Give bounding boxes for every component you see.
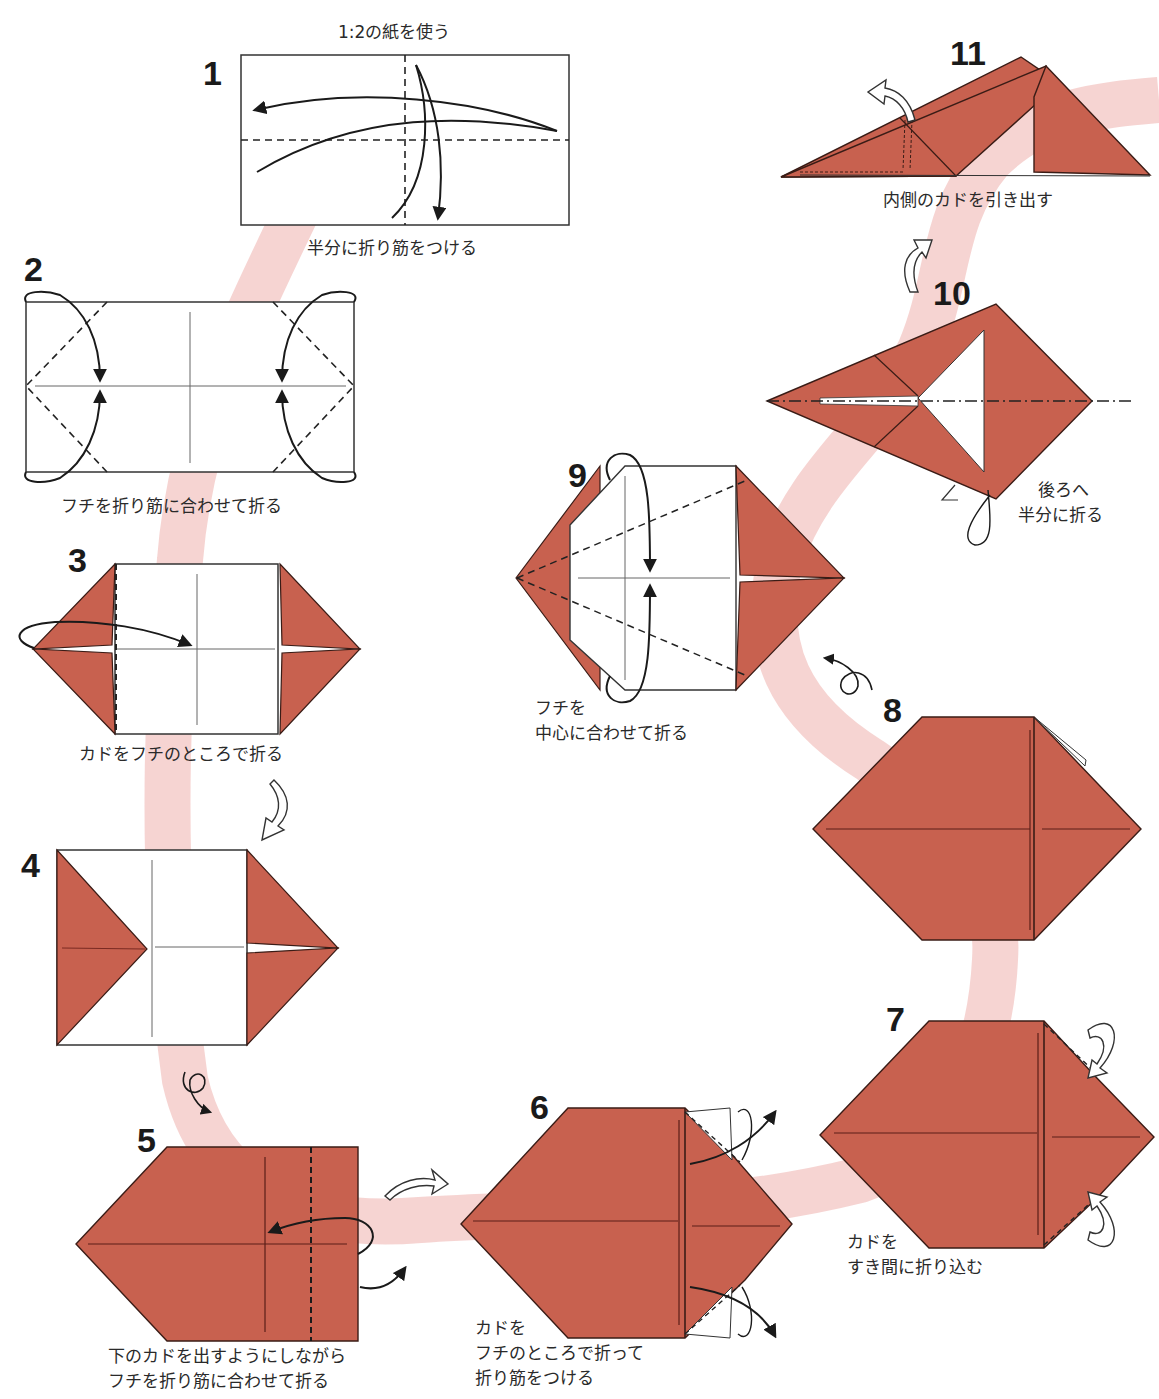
- step-5-instruction-line1: 下のカドを出すようにしながら: [108, 1344, 346, 1368]
- step-number-10: 10: [933, 276, 971, 310]
- step-6-instruction-line3: 折り筋をつける: [475, 1366, 594, 1390]
- step-9-instruction-line2: 中心に合わせて折る: [535, 721, 688, 745]
- step-1-diagram: [241, 55, 569, 225]
- step-4-diagram: [57, 850, 338, 1045]
- step-10-instruction-line2: 半分に折る: [1018, 503, 1103, 527]
- step-6-diagram: [461, 1108, 792, 1338]
- step-7-instruction-line1: カドを: [847, 1230, 898, 1254]
- step-10-instruction-line1: 後ろへ: [1038, 478, 1089, 502]
- step-6-instruction-line1: カドを: [475, 1316, 526, 1340]
- step-7-diagram: [820, 1021, 1154, 1248]
- step-number-7: 7: [886, 1002, 905, 1036]
- turn-over-icon: [825, 658, 872, 694]
- step-number-11: 11: [950, 36, 986, 70]
- step-2-instruction: フチを折り筋に合わせて折る: [61, 494, 282, 518]
- step-11-diagram: [781, 57, 1150, 177]
- step-number-4: 4: [21, 848, 40, 882]
- step-number-3: 3: [68, 543, 87, 577]
- step-number-8: 8: [883, 693, 902, 727]
- step-3-diagram: [20, 564, 360, 734]
- step-1-note: 1:2の紙を使う: [338, 20, 450, 44]
- step-5-instruction-line2: フチを折り筋に合わせて折る: [108, 1369, 329, 1393]
- step-number-9: 9: [568, 458, 587, 492]
- step-7-instruction-line2: すき間に折り込む: [847, 1255, 983, 1279]
- step-number-1: 1: [203, 56, 222, 90]
- step-5-diagram: [76, 1147, 405, 1341]
- step-1-instruction: 半分に折り筋をつける: [307, 236, 477, 260]
- rotate-hollow-arrow-icon: [385, 1170, 448, 1200]
- step-3-instruction: カドをフチのところで折る: [79, 742, 283, 766]
- step-11-instruction: 内側のカドを引き出す: [883, 188, 1053, 212]
- step-6-instruction-line2: フチのところで折って: [475, 1341, 644, 1365]
- rotate-hollow-arrow-icon: [262, 780, 287, 840]
- step-number-2: 2: [24, 252, 43, 286]
- step-number-6: 6: [530, 1090, 549, 1124]
- step-9-instruction-line1: フチを: [535, 696, 586, 720]
- step-number-5: 5: [137, 1123, 156, 1157]
- step-2-diagram: [25, 292, 355, 482]
